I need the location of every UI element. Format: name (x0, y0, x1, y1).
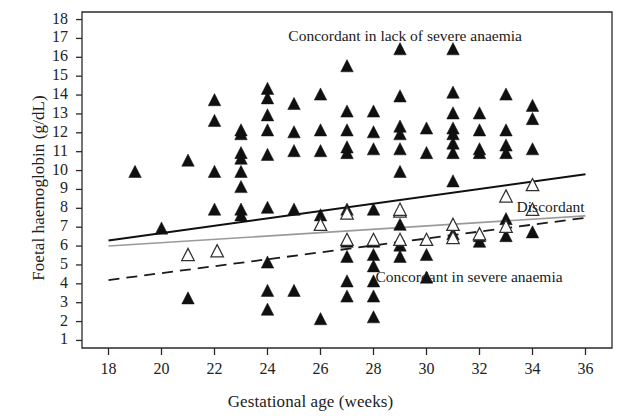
data-point-0-61 (394, 218, 407, 230)
data-point-1-1 (211, 245, 224, 257)
data-point-0-60 (394, 165, 407, 177)
data-point-0-0 (129, 165, 142, 177)
x-tick-label-20: 20 (147, 360, 177, 378)
y-tick-label-15: 15 (42, 66, 68, 84)
data-point-0-4 (208, 94, 221, 106)
y-tick-label-13: 13 (42, 104, 68, 122)
data-point-0-47 (367, 143, 380, 155)
y-tick-label-18: 18 (42, 10, 68, 28)
y-tick-label-16: 16 (42, 47, 68, 65)
data-point-0-37 (341, 124, 354, 136)
y-tick-label-8: 8 (42, 198, 68, 216)
data-point-1-5 (367, 233, 380, 245)
data-point-0-42 (341, 250, 354, 262)
data-point-0-5 (208, 114, 221, 126)
data-point-0-34 (314, 313, 327, 325)
data-point-0-26 (288, 126, 301, 138)
data-point-0-78 (473, 124, 486, 136)
data-point-0-13 (235, 180, 248, 192)
data-point-0-66 (420, 248, 433, 260)
data-point-0-31 (314, 124, 327, 136)
annotation-1: Discordant (517, 198, 585, 216)
data-point-0-45 (367, 105, 380, 117)
data-point-0-89 (526, 99, 539, 111)
data-point-0-27 (288, 145, 301, 157)
y-tick-label-12: 12 (42, 123, 68, 141)
x-tick-label-36: 36 (571, 360, 601, 378)
y-tick-label-4: 4 (42, 274, 68, 292)
data-point-0-69 (447, 86, 460, 98)
y-tick-label-6: 6 (42, 236, 68, 254)
data-point-1-7 (394, 233, 407, 245)
data-point-0-50 (367, 248, 380, 260)
x-tick-label-26: 26 (306, 360, 336, 378)
y-tick-label-17: 17 (42, 28, 68, 46)
trend-lines (109, 174, 586, 280)
y-tick-label-14: 14 (42, 85, 68, 103)
data-point-1-0 (182, 248, 195, 260)
x-tick-label-32: 32 (465, 360, 495, 378)
data-point-0-43 (341, 275, 354, 287)
x-tick-label-24: 24 (253, 360, 283, 378)
data-point-0-90 (526, 112, 539, 124)
data-point-0-64 (420, 122, 433, 134)
data-point-0-70 (447, 107, 460, 119)
data-point-0-56 (394, 90, 407, 102)
chart-figure: Foetal haemoglobin (g/dL) Gestational ag… (0, 0, 621, 418)
data-point-0-83 (500, 88, 513, 100)
data-point-1-3 (341, 233, 354, 245)
data-point-0-29 (288, 284, 301, 296)
annotation-0: Concordant in lack of severe anaemia (288, 27, 522, 45)
y-tick-label-10: 10 (42, 161, 68, 179)
data-point-0-7 (208, 203, 221, 215)
data-point-0-91 (526, 143, 539, 155)
data-point-0-32 (314, 145, 327, 157)
data-point-0-2 (182, 154, 195, 166)
data-point-1-8 (394, 203, 407, 215)
y-tick-label-5: 5 (42, 255, 68, 273)
data-point-0-6 (208, 165, 221, 177)
y-tick-label-1: 1 (42, 330, 68, 348)
x-tick-label-30: 30 (412, 360, 442, 378)
data-point-0-22 (261, 256, 274, 268)
data-point-0-20 (261, 148, 274, 160)
data-point-0-23 (261, 284, 274, 296)
data-point-0-53 (367, 290, 380, 302)
data-point-0-19 (261, 124, 274, 136)
y-tick-label-11: 11 (42, 142, 68, 160)
y-tick-label-3: 3 (42, 293, 68, 311)
data-point-0-44 (341, 290, 354, 302)
data-point-0-59 (394, 143, 407, 155)
data-point-0-63 (394, 250, 407, 262)
data-point-0-54 (367, 311, 380, 323)
data-point-0-77 (473, 107, 486, 119)
data-point-0-1 (155, 222, 168, 234)
data-point-0-30 (314, 88, 327, 100)
y-tick-label-2: 2 (42, 312, 68, 330)
axis-ticks (76, 20, 586, 355)
data-point-0-65 (420, 146, 433, 158)
y-tick-label-7: 7 (42, 217, 68, 235)
x-tick-label-34: 34 (518, 360, 548, 378)
data-point-0-21 (261, 201, 274, 213)
data-point-0-24 (261, 303, 274, 315)
data-point-0-75 (447, 175, 460, 187)
data-point-0-25 (288, 97, 301, 109)
y-tick-label-9: 9 (42, 179, 68, 197)
data-point-0-28 (288, 203, 301, 215)
x-tick-label-28: 28 (359, 360, 389, 378)
data-point-0-3 (182, 292, 195, 304)
data-point-0-46 (367, 126, 380, 138)
data-point-0-84 (500, 124, 513, 136)
data-point-0-18 (261, 109, 274, 121)
data-point-0-35 (341, 60, 354, 72)
data-point-0-92 (526, 226, 539, 238)
annotation-2: Concordant in severe anaemia (375, 268, 562, 286)
data-point-0-36 (341, 105, 354, 117)
data-point-1-12 (473, 228, 486, 240)
data-point-0-12 (235, 165, 248, 177)
x-tick-label-22: 22 (200, 360, 230, 378)
data-point-1-13 (500, 190, 513, 202)
x-tick-label-18: 18 (94, 360, 124, 378)
